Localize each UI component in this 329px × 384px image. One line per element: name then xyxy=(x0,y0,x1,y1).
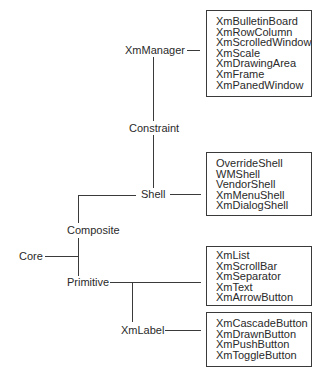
widget-item: XmBulletinBoard xyxy=(216,16,311,27)
box-manager-widgets: XmBulletinBoard XmRowColumn XmScrolledWi… xyxy=(206,10,312,97)
box-shell-widgets: OverrideShell WMShell VendorShell XmMenu… xyxy=(206,152,312,216)
widget-item: XmDialogShell xyxy=(216,200,311,211)
connector-xmmanager-box xyxy=(187,50,200,51)
node-composite: Composite xyxy=(66,224,121,236)
widget-item: XmList xyxy=(216,250,311,261)
connector-composite-shell xyxy=(78,195,136,196)
connector-composite-primitive xyxy=(78,238,79,277)
connector-xmmanager-constraint xyxy=(153,57,154,121)
connector-primitive-box xyxy=(108,282,201,283)
connector-constraint-shell xyxy=(153,135,154,189)
connector-xmlabel-box xyxy=(165,330,201,331)
widget-item: OverrideShell xyxy=(216,158,311,169)
widget-item: XmCascadeButton xyxy=(216,318,311,329)
box-label-widgets: XmCascadeButton XmDrawnButton XmPushButt… xyxy=(206,312,312,367)
connector-core xyxy=(45,256,78,257)
widget-item: XmPanedWindow xyxy=(216,80,311,91)
widget-item: XmArrowButton xyxy=(216,292,311,303)
box-primitive-widgets: XmList XmScrollBar XmSeparator XmText Xm… xyxy=(206,246,312,306)
connector-shell-box xyxy=(170,194,201,195)
node-xmlabel: XmLabel xyxy=(120,324,165,336)
widget-item: XmToggleButton xyxy=(216,350,311,361)
connector-composite-top xyxy=(78,195,79,223)
node-primitive: Primitive xyxy=(66,276,110,288)
connector-primitive-xmlabel xyxy=(132,282,133,322)
node-xmmanager: XmManager xyxy=(124,44,186,56)
node-constraint: Constraint xyxy=(128,122,180,134)
node-shell: Shell xyxy=(140,188,166,200)
node-core: Core xyxy=(18,250,44,262)
widget-item: XmFrame xyxy=(216,69,311,80)
